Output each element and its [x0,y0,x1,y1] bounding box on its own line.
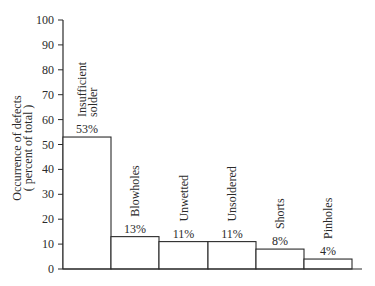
y-tick-label: 70 [42,88,54,102]
y-tick-label: 40 [42,162,54,176]
bar-value-label: 8% [272,234,288,248]
bars: 53%Insufficientsolder13%Blowholes11%Unwe… [63,61,352,269]
bar-shorts: 8%Shorts [256,198,304,269]
y-tick-label: 60 [42,113,54,127]
y-tick-label: 100 [36,13,54,27]
bar-value-label: 53% [76,122,98,136]
y-axis-label-line: ( percent of total ) [21,105,35,192]
bar-value-label: 13% [124,222,146,236]
y-axis-label: Occurrence of defects( percent of total … [10,95,35,201]
bar-pinholes: 4%Pinholes [304,197,352,269]
y-tick-label: 50 [42,138,54,152]
y-axis: 0102030405060708090100 [36,13,63,276]
bar-value-label: 11% [221,227,243,241]
pareto-chart: 0102030405060708090100 Occurrence of def… [0,0,375,286]
bar-value-label: 4% [320,244,336,258]
bar-value-label: 11% [173,227,195,241]
bar-category-label: Blowholes [128,165,142,217]
y-tick-label: 0 [48,262,54,276]
bar-category-label: Pinholes [321,197,335,239]
bar-category-label: solder [86,88,100,117]
bar-insufficient-solder: 53%Insufficientsolder [63,61,111,269]
bar-category-label: Shorts [273,198,287,229]
bar-category-label: Unsoldered [225,166,239,221]
y-tick-label: 80 [42,63,54,77]
bar-unsoldered: 11%Unsoldered [208,166,256,269]
bar-blowholes: 13%Blowholes [111,165,159,269]
bar-unwetted: 11%Unwetted [159,175,208,269]
y-tick-label: 30 [42,187,54,201]
y-tick-label: 10 [42,237,54,251]
y-tick-label: 90 [42,38,54,52]
y-tick-label: 20 [42,212,54,226]
bar-category-label: Unwetted [177,175,191,222]
